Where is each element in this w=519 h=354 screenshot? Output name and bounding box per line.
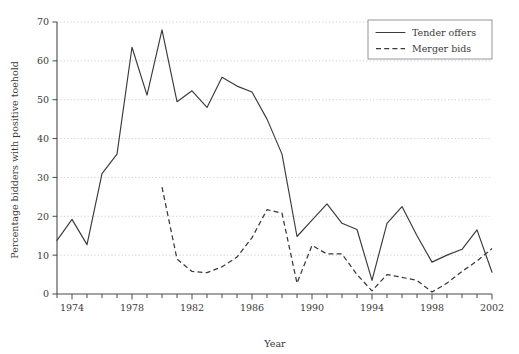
y-tick-label: 10 xyxy=(37,250,49,261)
x-tick-label: 1998 xyxy=(420,302,444,313)
y-tick-labels: 010203040506070 xyxy=(37,16,49,299)
chart-figure: 19741978198219861990199419982002 0102030… xyxy=(0,0,519,354)
x-tick-label: 2002 xyxy=(480,302,504,313)
legend-label: Merger bids xyxy=(412,43,471,54)
x-axis-title: Year xyxy=(263,338,286,349)
y-tick-label: 40 xyxy=(37,133,49,144)
y-tick-label: 50 xyxy=(37,94,49,105)
x-tick-label: 1990 xyxy=(300,302,324,313)
x-tick-label: 1974 xyxy=(60,302,84,313)
y-tick-label: 20 xyxy=(37,211,49,222)
legend-label: Tender offers xyxy=(412,27,476,38)
y-tick-label: 60 xyxy=(37,55,49,66)
x-tick-label: 1994 xyxy=(360,302,384,313)
series-line-merger-bids xyxy=(162,187,492,292)
y-tick-label: 0 xyxy=(43,288,49,299)
line-chart-canvas: 19741978198219861990199419982002 0102030… xyxy=(0,0,519,354)
y-tick-label: 30 xyxy=(37,172,49,183)
data-series xyxy=(57,30,492,292)
y-axis-title: Percentage bidders with positive toehold xyxy=(9,61,20,259)
y-axis-ticks xyxy=(53,22,58,294)
series-line-tender-offers xyxy=(57,30,492,281)
x-tick-label: 1978 xyxy=(120,302,144,313)
chart-legend: Tender offersMerger bids xyxy=(368,20,492,59)
x-tick-labels: 19741978198219861990199419982002 xyxy=(60,302,504,313)
x-tick-label: 1982 xyxy=(180,302,204,313)
x-axis-ticks xyxy=(57,294,492,300)
x-tick-label: 1986 xyxy=(240,302,264,313)
y-tick-label: 70 xyxy=(37,16,49,27)
